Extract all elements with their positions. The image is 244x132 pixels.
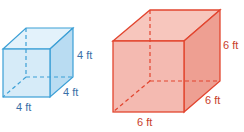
small-cube: 4 ft 4 ft 4 ft xyxy=(3,28,92,113)
large-cube: 6 ft 6 ft 6 ft xyxy=(113,10,238,128)
cubes-diagram: 4 ft 4 ft 4 ft 6 ft 6 ft 6 ft xyxy=(0,0,244,132)
large-cube-height-label: 6 ft xyxy=(223,39,238,51)
small-cube-depth-label: 4 ft xyxy=(63,86,78,98)
small-cube-width-label: 4 ft xyxy=(16,101,31,113)
large-cube-depth-label: 6 ft xyxy=(205,94,220,106)
large-cube-width-label: 6 ft xyxy=(137,116,152,128)
small-cube-height-label: 4 ft xyxy=(77,49,92,61)
